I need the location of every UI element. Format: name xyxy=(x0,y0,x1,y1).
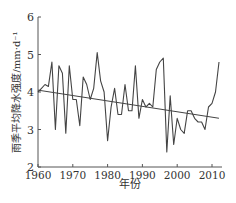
y-tick-label: 5 xyxy=(27,49,34,62)
precipitation-chart: 23456 196019701980199020002010 年份 雨季平均降水… xyxy=(0,0,236,203)
y-tick-label: 6 xyxy=(27,11,34,24)
y-tick-label: 4 xyxy=(27,86,34,99)
precipitation-series-line xyxy=(38,53,219,152)
y-tick-label: 3 xyxy=(27,124,34,137)
axes xyxy=(38,17,222,167)
x-tick-label: 1980 xyxy=(94,169,121,181)
y-axis-label: 雨季平均降水强度/mm·d⁻¹ xyxy=(10,31,22,152)
x-axis-label: 年份 xyxy=(119,177,141,191)
x-tick-label: 2010 xyxy=(199,169,226,181)
x-tick-label: 1970 xyxy=(59,169,86,181)
x-tick-label: 1960 xyxy=(25,169,52,181)
y-ticks: 23456 xyxy=(27,11,41,174)
x-tick-label: 2000 xyxy=(164,169,191,181)
